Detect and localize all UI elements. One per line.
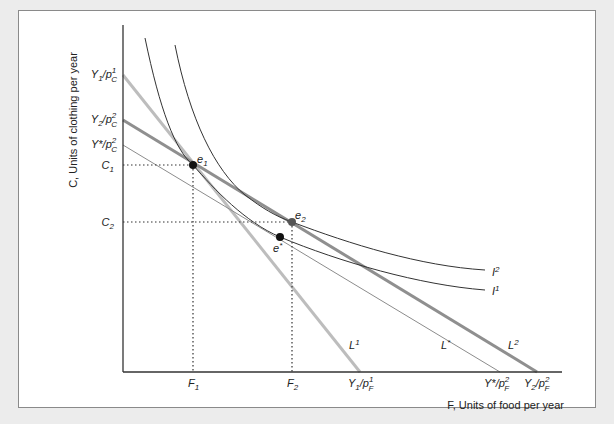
ytick-y2-pc2: Y2/p2C	[91, 111, 117, 129]
diagram-canvas: e1 e2 e* L1 L* L2 I2 I1 Y1/p1C Y2/p2C Y*…	[0, 0, 614, 424]
ytick-ystar-pc2: Y*/p2C	[91, 136, 117, 154]
label-l2: L2	[508, 338, 519, 351]
budget-line-lstar	[123, 145, 500, 372]
x-axis-title: F, Units of food per year	[447, 399, 564, 411]
label-estar: e*	[273, 241, 283, 254]
point-estar	[276, 233, 284, 241]
label-e2: e2	[295, 209, 306, 224]
label-i1: I1	[492, 284, 500, 297]
ytick-c1: C1	[102, 159, 114, 174]
ytick-c2: C2	[102, 216, 115, 231]
y-axis-title: C, Units of clothing per year	[67, 52, 79, 188]
label-lstar: L*	[441, 338, 451, 351]
xtick-ystar-pf2: Y*/p2F	[484, 375, 510, 393]
budget-line-l1	[123, 75, 360, 372]
ytick-y1-pc1: Y1/p1C	[91, 66, 117, 84]
indifference-curve-i2	[175, 45, 485, 270]
xtick-y1-pf1: Y1/p1F	[348, 375, 374, 393]
label-l1: L1	[349, 338, 360, 351]
xtick-f1: F1	[188, 377, 199, 392]
xtick-f2: F2	[287, 377, 299, 392]
point-e1	[189, 161, 197, 169]
xtick-y2-pf2: Y2/p2F	[524, 375, 550, 393]
label-i2: I2	[492, 265, 500, 278]
